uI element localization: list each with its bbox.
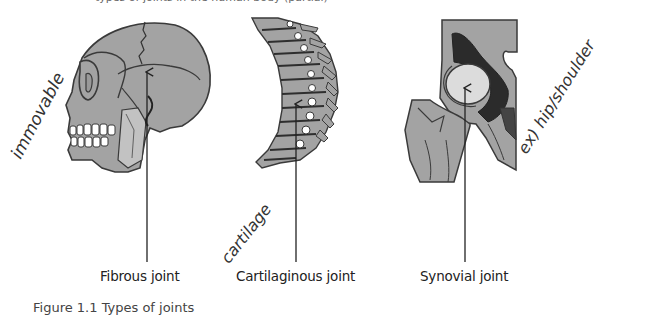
figure-caption: Figure 1.1 Types of joints [33,300,194,315]
label-synovial-joint: Synovial joint [420,268,508,284]
hip-illustration [405,20,517,182]
skull-illustration [66,22,210,172]
label-fibrous-joint: Fibrous joint [100,268,180,284]
label-cartilaginous-joint: Cartilaginous joint [236,268,355,284]
spine-illustration [252,18,338,168]
